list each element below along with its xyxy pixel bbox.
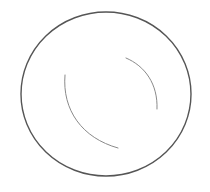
left-highlight-arc — [65, 75, 118, 148]
sphere-outline — [21, 12, 191, 176]
drawing-canvas — [0, 0, 210, 192]
right-highlight-arc — [126, 58, 157, 109]
sphere-drawing — [0, 0, 210, 192]
